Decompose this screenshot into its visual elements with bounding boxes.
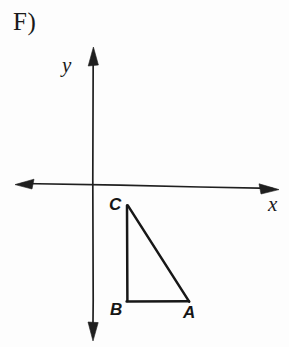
x-axis-line <box>22 184 272 189</box>
vertex-label-a: A <box>183 304 195 321</box>
figure-canvas: F) y x C B A <box>0 0 289 347</box>
y-axis-bottom-arrowhead <box>88 322 98 341</box>
x-axis-label: x <box>268 194 277 215</box>
x-axis-left-arrowhead <box>15 179 34 189</box>
problem-label: F) <box>13 9 36 34</box>
triangle-abc <box>127 205 190 301</box>
y-axis-label: y <box>62 55 71 76</box>
triangle-side-CA <box>128 205 190 301</box>
x-axis-group <box>15 179 279 194</box>
y-axis-top-arrowhead <box>88 47 98 66</box>
y-axis-group <box>88 47 98 341</box>
coordinate-plane-drawing <box>0 0 289 347</box>
vertex-label-b: B <box>110 301 122 318</box>
vertex-label-c: C <box>109 196 121 213</box>
